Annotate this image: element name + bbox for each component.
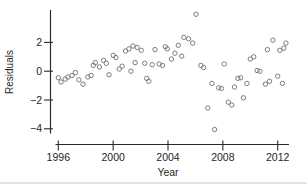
y-tick-label: −4 [30,122,42,134]
data-point [56,76,60,80]
data-point [265,47,269,51]
x-tick-label: 2008 [211,151,235,163]
data-point [81,82,85,86]
x-tick-label: 2004 [156,151,180,163]
data-point [206,106,210,110]
data-point [139,48,143,52]
data-point [267,79,271,83]
data-point [252,55,256,59]
data-point [186,37,190,41]
data-point [176,43,180,47]
data-point [212,127,216,131]
x-axis-title: Year [157,166,179,178]
data-point [120,64,124,68]
data-point [191,41,195,45]
data-point [210,81,214,85]
data-point [263,82,267,86]
residuals-scatter-figure: 20−2−419962000200420082012YearResiduals [0,0,307,189]
data-point [180,54,184,58]
page-scan-artifact [0,182,307,184]
data-point [104,61,108,65]
y-tick-label: 0 [36,65,42,77]
data-point [239,76,243,80]
data-point [133,60,137,64]
data-point [282,46,286,50]
data-point [153,47,157,51]
data-point [97,65,101,69]
data-point [77,78,81,82]
data-point [182,35,186,39]
residuals-vs-year-scatter-plot: 20−2−419962000200420082012YearResiduals [0,0,307,189]
data-point [143,61,147,65]
data-point [232,85,236,89]
data-point [127,47,131,51]
data-point [173,51,177,55]
data-point [258,69,262,73]
data-point [169,57,173,61]
data-point [245,81,249,85]
data-point [276,74,280,78]
data-point [219,86,223,90]
data-point [59,80,63,84]
data-point [284,41,288,45]
x-tick-label: 2012 [266,151,290,163]
data-point [107,73,111,77]
y-tick-label: −2 [30,94,42,106]
x-tick-label: 1996 [47,151,71,163]
data-point [194,12,198,16]
data-point [230,103,234,107]
data-point [129,69,133,73]
y-tick-label: 2 [36,36,42,48]
data-point [280,81,284,85]
data-point [150,62,154,66]
data-point [73,70,77,74]
data-point [222,62,226,66]
x-tick-label: 2000 [101,151,125,163]
y-axis-title: Residuals [4,50,15,94]
data-point [135,45,139,49]
data-point [241,96,245,100]
data-point [271,38,275,42]
